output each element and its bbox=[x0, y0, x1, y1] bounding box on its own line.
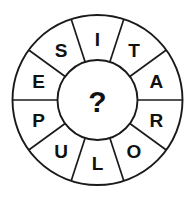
wheel-diagram: ITAROLUPES ? bbox=[0, 0, 195, 201]
sector-letter-lower-right: O bbox=[127, 141, 142, 162]
sector-letter-top: I bbox=[95, 29, 100, 50]
center-question-mark: ? bbox=[88, 85, 106, 118]
sector-letter-right-upper: A bbox=[150, 71, 164, 92]
sector-letter-upper-left: S bbox=[55, 40, 68, 61]
sector-letter-lower-left: U bbox=[54, 141, 68, 162]
sector-letter-upper-right: T bbox=[128, 40, 140, 61]
sector-letter-right-lower: R bbox=[150, 110, 164, 131]
sector-letter-bottom: L bbox=[92, 153, 104, 174]
sector-letter-left-lower: P bbox=[32, 110, 45, 131]
word-wheel-puzzle: ITAROLUPES ? bbox=[0, 0, 195, 201]
sector-letter-left-upper: E bbox=[32, 71, 45, 92]
